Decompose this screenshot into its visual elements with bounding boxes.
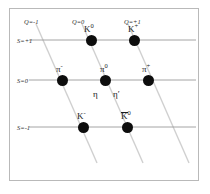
particle-label-pi-minus: π- xyxy=(56,65,63,74)
strangeness-axis-label-2: S=-1 xyxy=(17,125,30,132)
charge-axis-label-0: Q=-1 xyxy=(24,19,39,26)
strangeness-axis-label-0: S=+1 xyxy=(17,38,32,45)
particle-label-k-minus: K- xyxy=(77,112,86,121)
particle-dot-k-minus xyxy=(78,122,89,133)
particle-dot-pi-minus xyxy=(57,75,68,86)
particle-dot-pi-plus xyxy=(143,75,154,86)
strangeness-lines-group xyxy=(29,40,196,127)
particle-label-k-plus: K+ xyxy=(128,25,138,34)
particle-label-eta-prime: η′ xyxy=(113,90,120,99)
particle-label-pi-plus: π+ xyxy=(142,65,150,74)
meson-nonet-figure: S=+1S=0S=-1Q=-1Q=0Q=+1 K0K+π-π0π+K-K0ηη′ xyxy=(0,0,210,194)
particle-dot-pi-zero xyxy=(100,75,111,86)
particle-label-k-zero-bar: K0 xyxy=(121,112,131,121)
particle-dot-k-zero-bar xyxy=(122,122,133,133)
particle-label-pi-zero: π0 xyxy=(100,65,108,74)
particle-label-k-zero-top: K0 xyxy=(84,25,94,34)
grid-lines xyxy=(0,0,210,194)
charge-axis-label-1: Q=0 xyxy=(72,19,84,26)
strangeness-axis-label-1: S=0 xyxy=(17,78,28,85)
particle-dot-k-zero-top xyxy=(86,35,97,46)
particle-label-eta: η xyxy=(93,90,98,99)
particle-dot-k-plus xyxy=(129,35,140,46)
